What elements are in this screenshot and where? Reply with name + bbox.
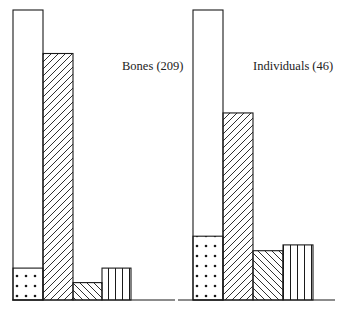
bar-blank bbox=[13, 10, 43, 300]
bar-diag-right bbox=[223, 113, 253, 300]
bar-dotted-segment bbox=[13, 268, 43, 300]
bar-vertical bbox=[102, 268, 131, 300]
bar-diag-right bbox=[43, 54, 73, 301]
chart-panel: Individuals (46) bbox=[178, 10, 335, 300]
chart-panels: Bones (209)Individuals (46) bbox=[12, 10, 335, 300]
bar-diag-left bbox=[253, 251, 283, 300]
bar-diag-left bbox=[73, 283, 102, 300]
bar-vertical bbox=[283, 245, 313, 300]
panel-label: Bones (209) bbox=[122, 59, 183, 73]
bar-dotted-segment bbox=[193, 236, 223, 300]
bar-chart: Bones (209)Individuals (46) bbox=[0, 0, 351, 309]
panel-label: Individuals (46) bbox=[253, 59, 333, 73]
chart-panel: Bones (209) bbox=[12, 10, 183, 300]
